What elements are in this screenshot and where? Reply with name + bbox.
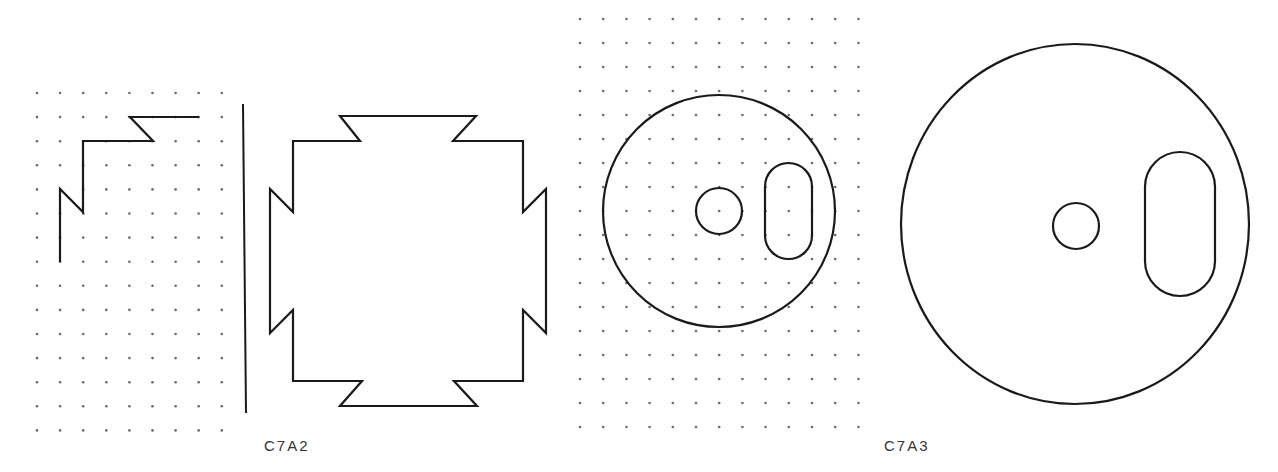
grid-dot: [579, 402, 582, 405]
grid-dot: [174, 405, 177, 408]
grid-dot: [197, 405, 200, 408]
grid-dot: [128, 285, 131, 288]
grid-dot: [579, 162, 582, 165]
grid-dot: [151, 333, 154, 336]
grid-dot: [811, 426, 814, 429]
hole-circle-c7a3: [1053, 203, 1099, 249]
grid-dot: [105, 260, 108, 263]
grid-dot: [741, 258, 744, 261]
grid-dot: [579, 186, 582, 189]
grid-dot: [857, 282, 860, 285]
grid-dot: [718, 306, 721, 309]
grid-dot: [672, 138, 675, 141]
grid-dot: [811, 18, 814, 21]
grid-dot: [857, 42, 860, 45]
grid-dot: [128, 164, 131, 167]
grid-dot: [857, 210, 860, 213]
grid-dot: [764, 114, 767, 117]
grid-dot: [221, 92, 224, 95]
grid-dot: [764, 258, 767, 261]
grid-dot: [82, 405, 85, 408]
grid-dot: [36, 188, 39, 191]
grid-dot: [788, 42, 791, 45]
grid-dot: [695, 330, 698, 333]
grid-dot: [718, 426, 721, 429]
grid-dot: [672, 282, 675, 285]
grid-dot: [579, 426, 582, 429]
grid-dot: [36, 285, 39, 288]
grid-dot: [718, 402, 721, 405]
grid-dot: [811, 114, 814, 117]
grid-dot: [672, 114, 675, 117]
grid-dot: [857, 354, 860, 357]
grid-dot: [197, 309, 200, 312]
grid-dot: [174, 92, 177, 95]
grid-dot: [221, 285, 224, 288]
dot-grid-panel-1: [36, 92, 223, 432]
grid-dot: [151, 429, 154, 432]
grid-dot: [695, 354, 698, 357]
grid-dot: [788, 186, 791, 189]
grid-dot: [834, 330, 837, 333]
grid-dot: [788, 402, 791, 405]
grid-dot: [105, 236, 108, 239]
grid-dot: [82, 357, 85, 360]
grid-dot: [59, 333, 62, 336]
grid-dot: [834, 306, 837, 309]
grid-dot: [718, 282, 721, 285]
grid-dot: [741, 378, 744, 381]
grid-dot: [788, 378, 791, 381]
grid-dot: [151, 188, 154, 191]
outer-disc-c7a3: [901, 44, 1249, 404]
grid-dot: [602, 114, 605, 117]
grid-dot: [105, 212, 108, 215]
grid-dot: [672, 234, 675, 237]
grid-dot: [579, 18, 582, 21]
grid-dot: [625, 402, 628, 405]
grid-dot: [59, 140, 62, 143]
grid-dot: [672, 90, 675, 93]
grid-dot: [128, 212, 131, 215]
grid-dot: [834, 114, 837, 117]
grid-dot: [672, 378, 675, 381]
grid-dot: [197, 381, 200, 384]
grid-dot: [36, 333, 39, 336]
grid-dot: [151, 405, 154, 408]
grid-dot: [811, 162, 814, 165]
grid-dot: [857, 186, 860, 189]
grid-dot: [695, 42, 698, 45]
grid-dot: [82, 92, 85, 95]
grid-dot: [857, 18, 860, 21]
grid-dot: [648, 186, 651, 189]
grid-dot: [59, 116, 62, 119]
grid-dot: [718, 210, 721, 213]
grid-dot: [59, 285, 62, 288]
grid-dot: [648, 282, 651, 285]
grid-dot: [36, 92, 39, 95]
grid-dot: [695, 426, 698, 429]
grid-dot: [59, 164, 62, 167]
grid-dot: [857, 114, 860, 117]
grid-dot: [579, 66, 582, 69]
grid-dot: [672, 306, 675, 309]
grid-dot: [128, 381, 131, 384]
grid-dot: [788, 66, 791, 69]
grid-dot: [105, 164, 108, 167]
grid-dot: [221, 429, 224, 432]
grid-dot: [648, 18, 651, 21]
grid-dot: [695, 306, 698, 309]
grid-dot: [811, 354, 814, 357]
grid-dot: [36, 212, 39, 215]
grid-dot: [811, 402, 814, 405]
grid-dot: [857, 234, 860, 237]
grid-dot: [174, 309, 177, 312]
grid-dot: [579, 330, 582, 333]
grid-dot: [625, 210, 628, 213]
grid-dot: [648, 42, 651, 45]
grid-dot: [174, 333, 177, 336]
grid-dot: [197, 92, 200, 95]
grid-dot: [648, 378, 651, 381]
grid-dot: [625, 90, 628, 93]
grid-dot: [741, 306, 744, 309]
grid-dot: [764, 90, 767, 93]
